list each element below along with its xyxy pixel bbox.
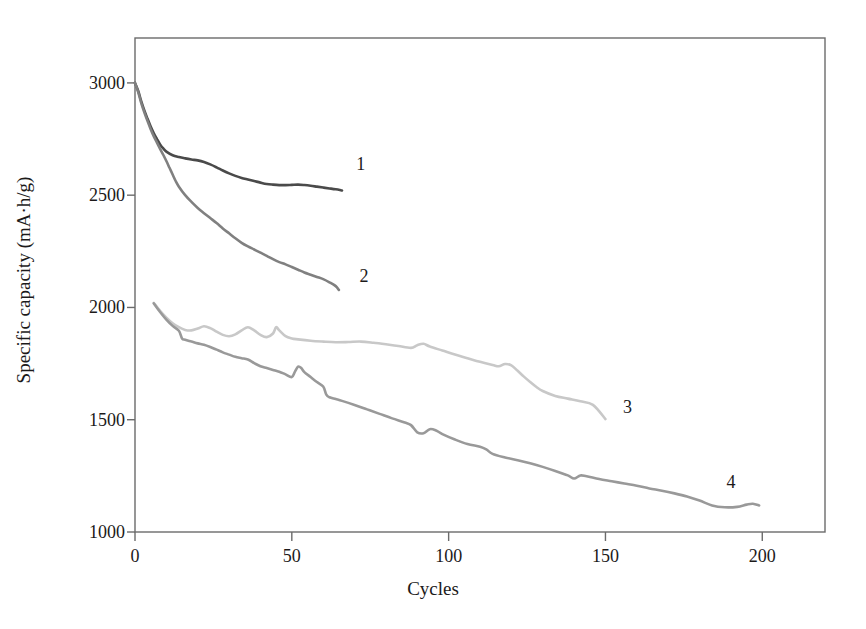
chart-figure: Specific capacity (mA·h/g) Cycles 100015… bbox=[0, 0, 866, 629]
y-axis-label-container: Specific capacity (mA·h/g) bbox=[4, 0, 44, 560]
x-axis-tick-label: 150 bbox=[592, 546, 619, 567]
x-axis-tick-label: 50 bbox=[283, 546, 301, 567]
series-line-1 bbox=[135, 83, 342, 191]
y-axis-tick-label: 1000 bbox=[55, 522, 125, 543]
y-axis-tick-label: 1500 bbox=[55, 409, 125, 430]
series-label-2: 2 bbox=[359, 266, 368, 287]
x-axis-tick-label: 0 bbox=[131, 546, 140, 567]
series-label-4: 4 bbox=[726, 472, 735, 493]
x-axis-label: Cycles bbox=[0, 578, 866, 600]
series-line-3 bbox=[154, 303, 606, 419]
x-axis-tick-label: 100 bbox=[435, 546, 462, 567]
series-line-4 bbox=[154, 303, 759, 507]
chart-plot-area bbox=[0, 0, 866, 629]
x-axis-tick-label: 200 bbox=[749, 546, 776, 567]
series-label-1: 1 bbox=[356, 153, 365, 174]
y-axis-tick-label: 2000 bbox=[55, 297, 125, 318]
y-axis-tick-label: 3000 bbox=[55, 72, 125, 93]
y-axis-label: Specific capacity (mA·h/g) bbox=[13, 177, 35, 384]
y-axis-tick-label: 2500 bbox=[55, 185, 125, 206]
plot-frame bbox=[135, 38, 825, 532]
series-label-3: 3 bbox=[623, 397, 632, 418]
